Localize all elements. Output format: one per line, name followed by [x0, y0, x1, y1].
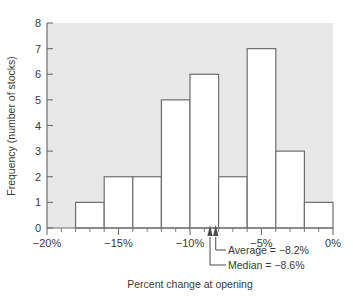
histogram-bar [304, 202, 333, 228]
y-tick-label: 7 [35, 43, 41, 55]
median-annotation-label: Median = −8.6% [228, 259, 304, 271]
histogram-bar [104, 177, 133, 228]
histogram-bar [161, 100, 190, 228]
chart-canvas: 012345678 −20%−15%−10%−5%0% Average = −8… [0, 0, 353, 298]
histogram-bar [276, 151, 305, 228]
y-tick-label: 1 [35, 196, 41, 208]
histogram-figure: 012345678 −20%−15%−10%−5%0% Average = −8… [0, 0, 353, 298]
histogram-bar [247, 49, 276, 228]
x-tick-label: −10% [176, 237, 205, 249]
histogram-bar [133, 177, 162, 228]
annotation-leader-lines [210, 237, 226, 265]
histogram-bar [190, 74, 219, 228]
y-tick-label: 5 [35, 94, 41, 106]
y-tick-label: 3 [35, 145, 41, 157]
x-axis-title: Percent change at opening [127, 278, 253, 290]
x-tick-label: −20% [33, 237, 62, 249]
histogram-bar [219, 177, 248, 228]
y-axis-title: Frequency (number of stocks) [5, 56, 17, 195]
average-leader-line [216, 237, 226, 250]
y-tick-label: 8 [35, 17, 41, 29]
average-annotation-label: Average = −8.2% [228, 244, 309, 256]
y-tick-label: 0 [35, 222, 41, 234]
y-tick-label: 6 [35, 68, 41, 80]
histogram-bar [76, 202, 105, 228]
y-tick-label: 4 [35, 120, 41, 132]
x-tick-label: 0% [325, 237, 341, 249]
median-leader-line [210, 237, 226, 265]
y-tick-label: 2 [35, 171, 41, 183]
x-tick-label: −15% [104, 237, 133, 249]
